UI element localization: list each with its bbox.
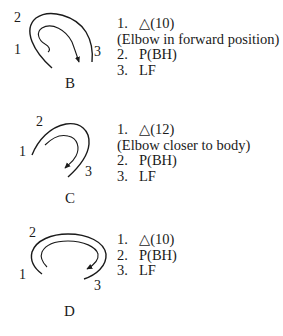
step-2: 2.P(BH) [117,47,279,63]
step-number: 3. [117,63,139,79]
inner-stroke-arrow [41,241,98,269]
step-1: 1.△(12) [117,122,250,138]
step-number: 2. [117,248,139,264]
step-list: 1.△(10) (Elbow in forward position) 2.P(… [117,16,279,78]
point-label-3: 3 [94,279,101,293]
step-text: P(BH) [139,46,177,62]
step-number: 2. [117,153,139,169]
step-3: 3.LF [117,63,279,79]
step-1-note: (Elbow closer to body) [117,138,250,154]
point-label-1: 1 [19,145,26,159]
figure-caption: B [65,76,75,91]
step-number: 3. [117,263,139,279]
inner-stroke-arrow [45,135,78,168]
step-2: 2.P(BH) [117,248,177,264]
step-1: 1.△(10) [117,16,279,32]
point-label-2: 2 [29,226,36,240]
step-text: P(BH) [139,152,177,168]
step-text: LF [139,262,156,278]
point-label-3: 3 [94,45,101,59]
step-number: 1. [117,122,139,138]
figure-c: 2 1 3 C 1.△(12) (Elbow closer to body) 2… [0,112,283,224]
step-text: LF [139,62,156,78]
step-list: 1.△(12) (Elbow closer to body) 2.P(BH) 3… [117,122,250,184]
step-text: △(12) [139,121,174,137]
step-2: 2.P(BH) [117,153,250,169]
step-text: △(10) [139,231,174,247]
figure-caption: C [65,191,75,206]
outer-stroke-path [30,14,92,68]
step-number: 1. [117,232,139,248]
figure-d: 2 1 3 D 1.△(10) 2.P(BH) 3.LF [0,224,283,336]
step-3: 3.LF [117,263,177,279]
point-label-1: 1 [14,43,21,57]
step-1: 1.△(10) [117,232,177,248]
step-text: P(BH) [139,247,177,263]
step-list: 1.△(10) 2.P(BH) 3.LF [117,232,177,279]
figure-b: 2 1 3 B 1.△(10) (Elbow in forward positi… [0,0,283,112]
point-label-1: 1 [19,268,26,282]
point-label-2: 2 [14,11,21,25]
step-text: △(10) [139,15,174,31]
inner-stroke-arrow [38,26,79,62]
step-number: 3. [117,169,139,185]
step-1-note: (Elbow in forward position) [117,32,279,48]
step-number: 2. [117,47,139,63]
step-text: LF [139,168,156,184]
figure-caption: D [64,304,75,319]
point-label-3: 3 [85,165,92,179]
step-number: 1. [117,16,139,32]
step-3: 3.LF [117,169,250,185]
outer-stroke-path [32,124,89,177]
point-label-2: 2 [36,115,43,129]
